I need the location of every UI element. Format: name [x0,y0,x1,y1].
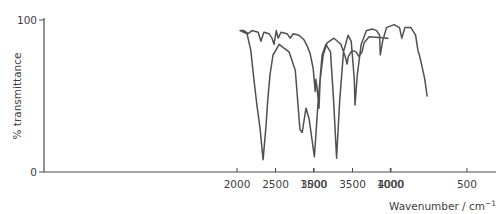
ir-spectrum-chart: 100 0 % transmittance 400035003000250020… [0,0,504,214]
y-axis-title: % transmittance [11,52,23,139]
x-tick-label-2000: 2000 [224,178,251,190]
x-tick-label-1500: 1500 [300,178,327,190]
spectrum-line [240,25,427,160]
x-tick-label-3500: 3500 [339,178,366,190]
y-tick-label-100: 100 [17,14,37,26]
y-tick-label-0: 0 [30,166,37,178]
x-tick-label-1000: 1000 [377,178,404,190]
x-tick-label-2500: 2500 [262,178,289,190]
x-tick-label-500: 500 [457,178,477,190]
x-axis-title: Wavenumber / cm−1 [389,199,496,212]
x-ticks: 4000350030002500200015001000500 [224,168,477,190]
